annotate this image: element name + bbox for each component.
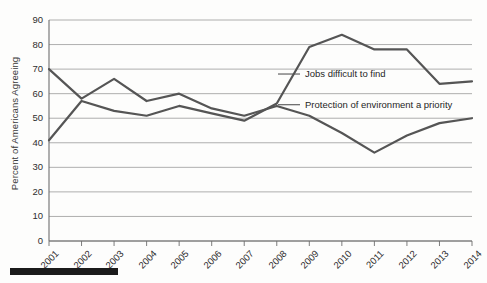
y-tick-label: 70 bbox=[17, 64, 43, 74]
gridlines bbox=[49, 20, 472, 241]
x-tick-marks bbox=[49, 241, 472, 246]
y-tick-label: 30 bbox=[17, 162, 43, 172]
axis-lines bbox=[49, 20, 472, 241]
y-tick-label: 90 bbox=[17, 15, 43, 25]
series-line-0 bbox=[49, 35, 472, 141]
chart-figure: Percent of Americans Agreeing 0102030405… bbox=[0, 0, 487, 283]
y-tick-label: 10 bbox=[17, 211, 43, 221]
y-tick-label: 50 bbox=[17, 113, 43, 123]
y-tick-label: 0 bbox=[17, 236, 43, 246]
footer-rule-bar bbox=[10, 268, 118, 275]
y-tick-label: 40 bbox=[17, 138, 43, 148]
annotation-leader-lines bbox=[278, 74, 300, 105]
line-chart-plot bbox=[0, 0, 487, 283]
y-tick-label: 60 bbox=[17, 89, 43, 99]
y-tick-label: 80 bbox=[17, 40, 43, 50]
series-label-jobs: Jobs difficult to find bbox=[305, 68, 386, 79]
y-tick-label: 20 bbox=[17, 187, 43, 197]
series-label-environment: Protection of environment a priority bbox=[305, 99, 452, 110]
